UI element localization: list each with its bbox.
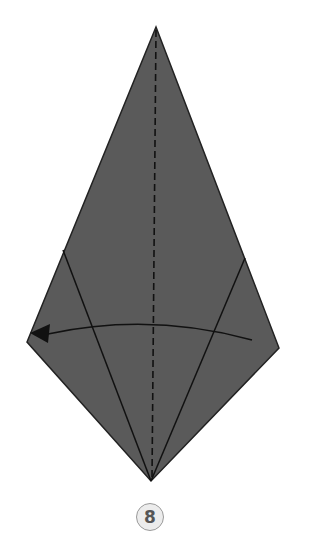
origami-diagram <box>0 0 311 552</box>
step-number-badge: 8 <box>136 503 164 531</box>
